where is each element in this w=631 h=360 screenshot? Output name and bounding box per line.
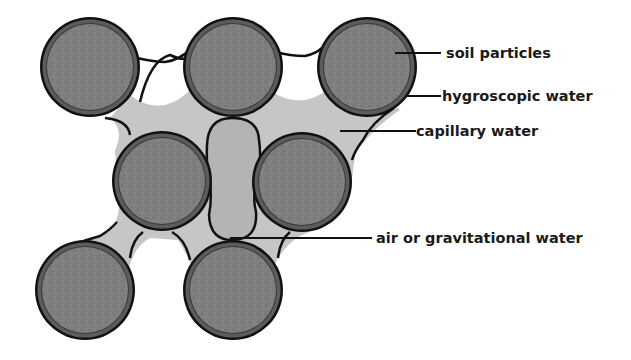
label-capillary-water: capillary water [416, 123, 539, 139]
soil-particle-7 [183, 240, 283, 340]
soil-particle-1 [40, 17, 140, 117]
label-air-gravitational-water: air or gravitational water [376, 230, 584, 246]
soil-particle-6 [35, 240, 135, 340]
soil-particle-4 [112, 131, 212, 231]
label-hygroscopic-water: hygroscopic water [442, 88, 593, 104]
soil-particle-2 [183, 17, 283, 117]
soil-particle-3 [317, 17, 417, 117]
label-soil-particles: soil particles [446, 45, 551, 61]
soil-particle-5 [252, 132, 352, 232]
soil-water-diagram: soil particles hygroscopic water capilla… [0, 0, 631, 360]
